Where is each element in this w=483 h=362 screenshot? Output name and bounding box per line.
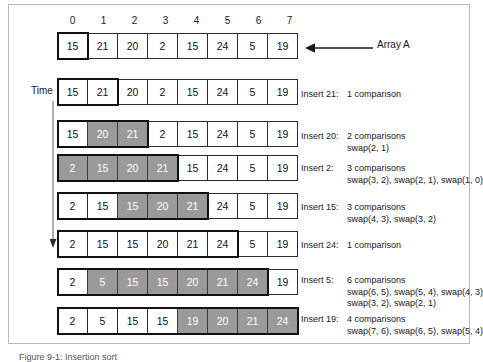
array-cells: 15202121524519 xyxy=(57,121,298,147)
array-cells: 25151520212419 xyxy=(57,269,298,295)
column-header-0: 0 xyxy=(57,13,88,29)
cell-7: 19 xyxy=(267,193,298,219)
row-insert-24: 21515202124519 xyxy=(57,231,298,257)
note-comparisons: 4 comparisons xyxy=(347,314,406,324)
column-header-1: 1 xyxy=(88,13,119,29)
array-cells: 21515202124519 xyxy=(57,193,298,219)
column-header-4: 4 xyxy=(181,13,212,29)
cell-2: 15 xyxy=(117,193,148,219)
array-cells: 15212021524519 xyxy=(57,79,298,105)
figure-container: 01234567 Time Array A 152120215245191521… xyxy=(8,4,470,344)
column-header-row: 01234567 xyxy=(57,13,305,29)
cell-3: 15 xyxy=(147,308,178,334)
array-cells: 15212021524519 xyxy=(57,33,298,59)
note-insert-21: Insert 21:1 comparison xyxy=(301,89,401,101)
cell-2: 21 xyxy=(117,121,148,147)
note-swaps-line-1: swap(2, 1) xyxy=(347,143,406,155)
array-cells: 21520211524519 xyxy=(57,155,298,181)
note-label: Insert 21: xyxy=(301,89,347,101)
note-swaps-line-2: swap(3, 2), swap(2, 1) xyxy=(347,298,483,310)
cell-0: 15 xyxy=(57,121,88,147)
note-comparisons: 3 comparisons xyxy=(347,202,406,212)
cell-4: 21 xyxy=(177,193,208,219)
note-insert-20: Insert 20:2 comparisonsswap(2, 1) xyxy=(301,131,406,154)
column-header-7: 7 xyxy=(274,13,305,29)
cell-3: 21 xyxy=(147,155,178,181)
cell-7: 19 xyxy=(267,269,298,295)
column-header-5: 5 xyxy=(212,13,243,29)
array-cells: 21515202124519 xyxy=(57,231,298,257)
cell-7: 24 xyxy=(267,308,298,334)
row-insert-5: 25151520212419 xyxy=(57,269,298,295)
cell-6: 5 xyxy=(237,155,268,181)
cell-1: 5 xyxy=(87,308,118,334)
row-array-a: 15212021524519 xyxy=(57,33,298,59)
cell-4: 15 xyxy=(177,79,208,105)
row-insert-15: 21515202124519 xyxy=(57,193,298,219)
cell-0: 2 xyxy=(57,308,88,334)
cell-2: 15 xyxy=(117,308,148,334)
cell-0: 2 xyxy=(57,155,88,181)
cell-4: 20 xyxy=(177,269,208,295)
cell-5: 20 xyxy=(207,308,238,334)
array-cells: 25151519202124 xyxy=(57,308,298,334)
cell-5: 24 xyxy=(207,193,238,219)
cell-7: 19 xyxy=(267,33,298,59)
cell-5: 24 xyxy=(207,79,238,105)
cell-4: 21 xyxy=(177,231,208,257)
cell-2: 15 xyxy=(117,269,148,295)
cell-1: 21 xyxy=(87,79,118,105)
cell-7: 19 xyxy=(267,231,298,257)
cell-1: 15 xyxy=(87,155,118,181)
cell-4: 15 xyxy=(177,33,208,59)
cell-0: 2 xyxy=(57,269,88,295)
note-swaps-line-1: swap(3, 2), swap(2, 1), swap(1, 0) xyxy=(347,175,483,187)
cell-0: 15 xyxy=(57,79,88,105)
cell-7: 19 xyxy=(267,121,298,147)
note-label: Insert 5: xyxy=(301,275,347,287)
column-header-6: 6 xyxy=(243,13,274,29)
cell-2: 20 xyxy=(117,79,148,105)
note-label: Insert 20: xyxy=(301,131,347,143)
cell-0: 15 xyxy=(57,33,88,59)
cell-1: 15 xyxy=(87,231,118,257)
cell-0: 2 xyxy=(57,193,88,219)
note-comparisons: 3 comparisons xyxy=(347,163,406,173)
cell-5: 21 xyxy=(207,269,238,295)
cell-7: 19 xyxy=(267,155,298,181)
cell-6: 5 xyxy=(237,121,268,147)
array-a-pointer-icon xyxy=(305,41,375,55)
note-insert-24: Insert 24:1 comparison xyxy=(301,240,401,252)
note-comparisons: 2 comparisons xyxy=(347,131,406,141)
cell-6: 5 xyxy=(237,193,268,219)
note-label: Insert 19: xyxy=(301,314,347,326)
row-insert-20: 15202121524519 xyxy=(57,121,298,147)
time-axis-label: Time xyxy=(31,85,53,96)
cell-3: 20 xyxy=(147,193,178,219)
cell-1: 21 xyxy=(87,33,118,59)
note-insert-2: Insert 2:3 comparisonsswap(3, 2), swap(2… xyxy=(301,163,483,186)
cell-6: 21 xyxy=(237,308,268,334)
note-comparisons: 6 comparisons xyxy=(347,275,406,285)
cell-5: 24 xyxy=(207,121,238,147)
note-comparisons: 1 comparison xyxy=(347,89,401,99)
note-comparisons: 1 comparison xyxy=(347,240,401,250)
cell-1: 15 xyxy=(87,193,118,219)
cell-4: 15 xyxy=(177,121,208,147)
cell-6: 5 xyxy=(237,231,268,257)
note-swaps-line-1: swap(6, 5), swap(5, 4), swap(4, 3) xyxy=(347,287,483,299)
cell-6: 5 xyxy=(237,33,268,59)
cell-3: 15 xyxy=(147,269,178,295)
cell-7: 19 xyxy=(267,79,298,105)
cell-1: 5 xyxy=(87,269,118,295)
cell-4: 15 xyxy=(177,155,208,181)
cell-5: 24 xyxy=(207,33,238,59)
note-insert-15: Insert 15:3 comparisonsswap(4, 3), swap(… xyxy=(301,202,436,225)
cell-1: 20 xyxy=(87,121,118,147)
row-insert-19: 25151519202124 xyxy=(57,308,298,334)
cell-6: 5 xyxy=(237,79,268,105)
column-header-2: 2 xyxy=(119,13,150,29)
cell-5: 24 xyxy=(207,231,238,257)
row-insert-2: 21520211524519 xyxy=(57,155,298,181)
cell-3: 2 xyxy=(147,33,178,59)
